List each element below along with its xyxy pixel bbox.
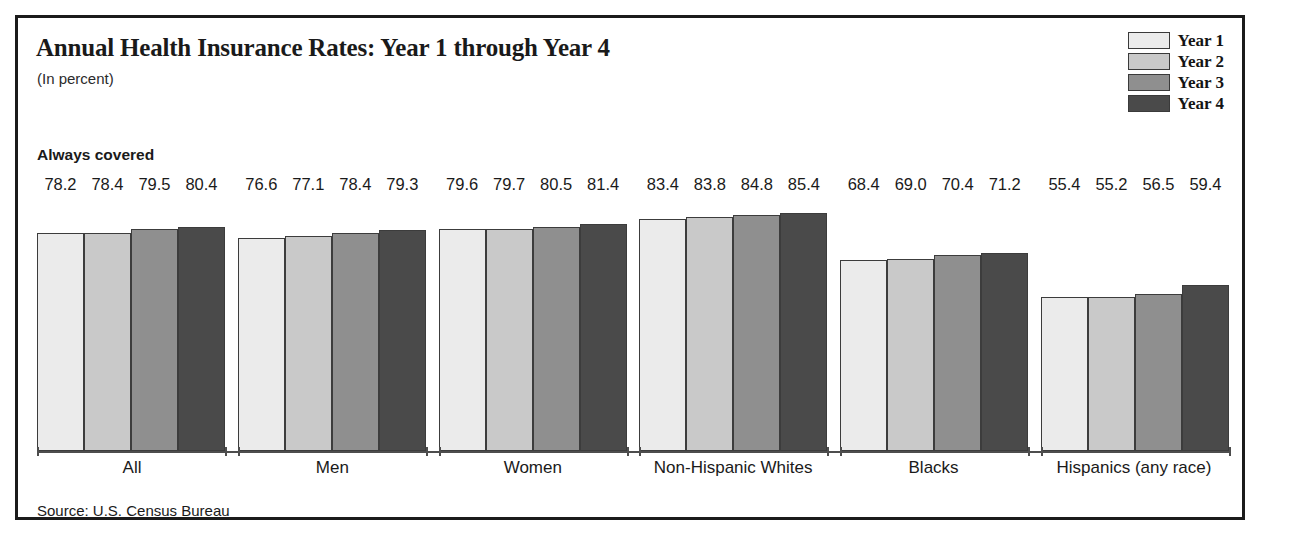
chart-legend: Year 1Year 2Year 3Year 4 <box>1128 30 1224 113</box>
bar[interactable] <box>981 253 1028 451</box>
bar-value-label: 78.4 <box>91 175 123 194</box>
bar[interactable] <box>686 217 733 451</box>
bar-item[interactable]: 69.0 <box>887 198 934 451</box>
category-label: Blacks <box>839 458 1029 482</box>
bar-value-label: 78.2 <box>44 175 76 194</box>
axis-tick <box>37 447 39 456</box>
bar[interactable] <box>1182 285 1229 451</box>
bar[interactable] <box>84 233 131 451</box>
bar-group: 55.455.256.559.4 <box>1041 198 1229 451</box>
legend-swatch-icon <box>1128 74 1170 91</box>
bar-value-label: 81.4 <box>587 175 619 194</box>
bar-value-label: 80.4 <box>185 175 217 194</box>
legend-item-4[interactable]: Year 4 <box>1128 93 1224 113</box>
bar-value-label: 84.8 <box>741 175 773 194</box>
bar-value-label: 76.6 <box>245 175 277 194</box>
bar-item[interactable]: 79.7 <box>486 198 533 451</box>
bar-item[interactable]: 85.4 <box>780 198 827 451</box>
bar[interactable] <box>533 227 580 451</box>
bar-value-label: 77.1 <box>292 175 324 194</box>
bar[interactable] <box>639 219 686 451</box>
bar[interactable] <box>379 230 426 451</box>
bar-item[interactable]: 78.4 <box>84 198 131 451</box>
legend-swatch-icon <box>1128 95 1170 112</box>
bar-item[interactable]: 71.2 <box>981 198 1028 451</box>
axis-tick <box>1028 447 1030 456</box>
bar-value-label: 85.4 <box>788 175 820 194</box>
x-axis-category-labels: AllMenWomenNon-Hispanic WhitesBlacksHisp… <box>37 458 1229 482</box>
axis-tick <box>426 447 428 456</box>
bar-value-label: 79.3 <box>386 175 418 194</box>
bar[interactable] <box>580 224 627 451</box>
axis-tick <box>827 447 829 456</box>
bar[interactable] <box>780 213 827 451</box>
bar-item[interactable]: 55.4 <box>1041 198 1088 451</box>
axis-tick <box>627 447 629 456</box>
source-note: Source: U.S. Census Bureau <box>37 502 230 519</box>
x-axis-line <box>37 451 1229 453</box>
bar-item[interactable]: 81.4 <box>580 198 627 451</box>
bar[interactable] <box>733 215 780 451</box>
bar-group: 76.677.178.479.3 <box>238 198 426 451</box>
legend-item-2[interactable]: Year 2 <box>1128 51 1224 71</box>
bar-group: 83.483.884.885.4 <box>639 198 827 451</box>
bar-item[interactable]: 77.1 <box>285 198 332 451</box>
bar-item[interactable]: 68.4 <box>840 198 887 451</box>
bar-item[interactable]: 80.5 <box>533 198 580 451</box>
legend-item-3[interactable]: Year 3 <box>1128 72 1224 92</box>
bar-value-label: 68.4 <box>848 175 880 194</box>
bar-item[interactable]: 59.4 <box>1182 198 1229 451</box>
bar-value-label: 83.8 <box>694 175 726 194</box>
axis-tick <box>225 447 227 456</box>
bar[interactable] <box>934 255 981 451</box>
axis-tick <box>639 447 641 456</box>
bar[interactable] <box>1088 297 1135 451</box>
plot-area: 78.278.479.580.476.677.178.479.379.679.7… <box>37 198 1229 451</box>
bar-item[interactable]: 70.4 <box>934 198 981 451</box>
bar[interactable] <box>178 227 225 451</box>
bar[interactable] <box>1041 297 1088 451</box>
bar-item[interactable]: 83.4 <box>639 198 686 451</box>
bar-item[interactable]: 79.6 <box>439 198 486 451</box>
bar[interactable] <box>332 233 379 451</box>
bar-item[interactable]: 80.4 <box>178 198 225 451</box>
legend-label: Year 4 <box>1178 95 1224 112</box>
axis-tick <box>1041 447 1043 456</box>
bar-item[interactable]: 79.3 <box>379 198 426 451</box>
bar-group: 79.679.780.581.4 <box>439 198 627 451</box>
legend-label: Year 3 <box>1178 74 1224 91</box>
bar[interactable] <box>238 238 285 451</box>
bar-value-label: 71.2 <box>989 175 1021 194</box>
bar-value-label: 79.5 <box>138 175 170 194</box>
bar-item[interactable]: 84.8 <box>733 198 780 451</box>
bar-item[interactable]: 55.2 <box>1088 198 1135 451</box>
legend-item-1[interactable]: Year 1 <box>1128 30 1224 50</box>
bar[interactable] <box>1135 294 1182 451</box>
bar-item[interactable]: 83.8 <box>686 198 733 451</box>
axis-tick <box>1229 447 1231 456</box>
bar-item[interactable]: 56.5 <box>1135 198 1182 451</box>
series-section-label: Always covered <box>37 146 154 164</box>
bar[interactable] <box>131 229 178 451</box>
chart-frame: Annual Health Insurance Rates: Year 1 th… <box>15 15 1245 520</box>
bar-group: 68.469.070.471.2 <box>840 198 1028 451</box>
chart-subtitle: (In percent) <box>37 70 114 87</box>
chart-title: Annual Health Insurance Rates: Year 1 th… <box>36 34 610 62</box>
bar-item[interactable]: 78.2 <box>37 198 84 451</box>
bar-item[interactable]: 79.5 <box>131 198 178 451</box>
category-label: Men <box>237 458 427 482</box>
legend-label: Year 2 <box>1178 53 1224 70</box>
bar-item[interactable]: 76.6 <box>238 198 285 451</box>
bar[interactable] <box>37 233 84 451</box>
bar[interactable] <box>486 229 533 451</box>
bar[interactable] <box>439 229 486 451</box>
category-label: All <box>37 458 227 482</box>
bar[interactable] <box>887 259 934 451</box>
bar-value-label: 79.7 <box>493 175 525 194</box>
bar-value-label: 78.4 <box>339 175 371 194</box>
bar-item[interactable]: 78.4 <box>332 198 379 451</box>
bar[interactable] <box>285 236 332 451</box>
bar-value-label: 83.4 <box>647 175 679 194</box>
bar-value-label: 79.6 <box>446 175 478 194</box>
bar[interactable] <box>840 260 887 451</box>
